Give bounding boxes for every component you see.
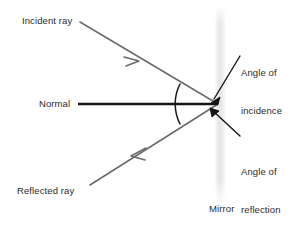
angle-of-incidence-label-line1: Angle of [241,67,282,80]
mirror-label: Mirror [209,203,234,216]
angle-of-reflection-label: Angle of reflection [241,141,281,226]
reflection-diagram: Incident ray Normal Reflected ray Angle … [0,0,296,226]
angle-of-incidence-label-line2: incidence [241,105,282,118]
angle-of-incidence-label: Angle of incidence [241,42,282,142]
reflected-ray-line [90,104,218,185]
incident-ray-line [80,22,218,104]
incident-ray-label: Incident ray [22,15,72,28]
angle-of-reflection-label-line2: reflection [241,204,281,217]
reflected-ray-label: Reflected ray [17,185,74,198]
angle-of-reflection-label-line1: Angle of [241,166,281,179]
normal-label: Normal [39,98,70,111]
incident-ray-arrowhead [124,57,139,66]
